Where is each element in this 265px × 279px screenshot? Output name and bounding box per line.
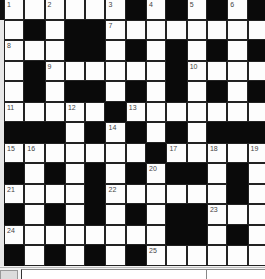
answer-cell[interactable] bbox=[187, 184, 207, 205]
answer-cell[interactable] bbox=[85, 61, 105, 82]
answer-cell[interactable] bbox=[248, 184, 265, 205]
answer-cell[interactable]: 6 bbox=[227, 0, 247, 20]
answer-cell[interactable] bbox=[187, 245, 207, 266]
answer-cell[interactable] bbox=[207, 245, 227, 266]
answer-cell[interactable] bbox=[65, 0, 85, 20]
answer-cell[interactable] bbox=[105, 143, 125, 164]
answer-cell[interactable] bbox=[24, 40, 44, 61]
answer-cell[interactable] bbox=[45, 225, 65, 246]
answer-cell[interactable]: 4 bbox=[146, 0, 166, 20]
answer-cell[interactable] bbox=[207, 61, 227, 82]
answer-cell[interactable] bbox=[24, 0, 44, 20]
answer-cell[interactable] bbox=[65, 245, 85, 266]
answer-cell[interactable]: 18 bbox=[207, 143, 227, 164]
answer-cell[interactable] bbox=[24, 102, 44, 123]
answer-cell[interactable] bbox=[105, 245, 125, 266]
answer-cell[interactable]: 14 bbox=[105, 122, 125, 143]
answer-cell[interactable] bbox=[248, 163, 265, 184]
answer-cell[interactable] bbox=[126, 225, 146, 246]
answer-cell[interactable]: 8 bbox=[4, 40, 24, 61]
answer-cell[interactable]: 17 bbox=[166, 143, 186, 164]
answer-cell[interactable] bbox=[166, 102, 186, 123]
answer-cell[interactable] bbox=[24, 204, 44, 225]
answer-cell[interactable] bbox=[166, 20, 186, 41]
answer-cell[interactable]: 7 bbox=[105, 20, 125, 41]
answer-cell[interactable]: 20 bbox=[146, 163, 166, 184]
answer-cell[interactable] bbox=[45, 102, 65, 123]
answer-cell[interactable] bbox=[65, 143, 85, 164]
answer-cell[interactable] bbox=[146, 20, 166, 41]
answer-cell[interactable] bbox=[65, 225, 85, 246]
answer-cell[interactable] bbox=[227, 81, 247, 102]
answer-cell[interactable] bbox=[166, 245, 186, 266]
answer-cell[interactable]: 21 bbox=[4, 184, 24, 205]
answer-cell[interactable] bbox=[24, 163, 44, 184]
answer-cell[interactable] bbox=[105, 204, 125, 225]
answer-cell[interactable] bbox=[227, 245, 247, 266]
answer-cell[interactable] bbox=[146, 81, 166, 102]
answer-cell[interactable] bbox=[227, 20, 247, 41]
answer-cell[interactable] bbox=[227, 102, 247, 123]
answer-cell[interactable] bbox=[187, 102, 207, 123]
answer-cell[interactable] bbox=[227, 143, 247, 164]
answer-cell[interactable] bbox=[105, 81, 125, 102]
answer-cell[interactable]: 11 bbox=[4, 102, 24, 123]
answer-cell[interactable] bbox=[187, 81, 207, 102]
answer-cell[interactable]: 9 bbox=[45, 61, 65, 82]
status-indicator[interactable] bbox=[0, 270, 18, 279]
answer-cell[interactable] bbox=[105, 61, 125, 82]
answer-cell[interactable] bbox=[85, 225, 105, 246]
answer-cell[interactable] bbox=[126, 20, 146, 41]
answer-cell[interactable]: 19 bbox=[248, 143, 265, 164]
answer-cell[interactable]: 23 bbox=[207, 204, 227, 225]
answer-cell[interactable] bbox=[146, 40, 166, 61]
answer-cell[interactable]: 15 bbox=[4, 143, 24, 164]
answer-cell[interactable] bbox=[207, 163, 227, 184]
answer-cell[interactable] bbox=[45, 20, 65, 41]
answer-cell[interactable] bbox=[4, 20, 24, 41]
answer-cell[interactable] bbox=[24, 225, 44, 246]
answer-cell[interactable] bbox=[227, 40, 247, 61]
answer-cell[interactable]: 13 bbox=[126, 102, 146, 123]
answer-cell[interactable] bbox=[65, 204, 85, 225]
answer-cell[interactable] bbox=[248, 245, 265, 266]
answer-cell[interactable] bbox=[146, 61, 166, 82]
answer-cell[interactable] bbox=[146, 204, 166, 225]
answer-cell[interactable] bbox=[85, 143, 105, 164]
answer-cell[interactable] bbox=[126, 61, 146, 82]
answer-cell[interactable] bbox=[65, 163, 85, 184]
answer-cell[interactable]: 10 bbox=[187, 61, 207, 82]
answer-cell[interactable]: 2 bbox=[45, 0, 65, 20]
answer-cell[interactable]: 24 bbox=[4, 225, 24, 246]
answer-cell[interactable] bbox=[248, 225, 265, 246]
answer-cell[interactable] bbox=[146, 225, 166, 246]
answer-cell[interactable] bbox=[85, 0, 105, 20]
answer-cell[interactable] bbox=[126, 143, 146, 164]
answer-cell[interactable]: 12 bbox=[65, 102, 85, 123]
answer-cell[interactable] bbox=[65, 184, 85, 205]
answer-cell[interactable]: 3 bbox=[105, 0, 125, 20]
answer-cell[interactable] bbox=[248, 102, 265, 123]
answer-cell[interactable] bbox=[105, 163, 125, 184]
answer-cell[interactable] bbox=[248, 204, 265, 225]
answer-cell[interactable]: 16 bbox=[24, 143, 44, 164]
answer-cell[interactable] bbox=[65, 61, 85, 82]
answer-cell[interactable] bbox=[105, 40, 125, 61]
answer-cell[interactable] bbox=[146, 102, 166, 123]
answer-cell[interactable] bbox=[45, 81, 65, 102]
answer-cell[interactable] bbox=[4, 81, 24, 102]
answer-cell[interactable] bbox=[4, 61, 24, 82]
answer-cell[interactable] bbox=[248, 61, 265, 82]
answer-cell[interactable] bbox=[187, 122, 207, 143]
answer-cell[interactable] bbox=[187, 143, 207, 164]
answer-cell[interactable] bbox=[207, 184, 227, 205]
answer-cell[interactable]: 25 bbox=[146, 245, 166, 266]
answer-cell[interactable]: 1 bbox=[4, 0, 24, 20]
answer-cell[interactable] bbox=[105, 225, 125, 246]
answer-cell[interactable] bbox=[227, 204, 247, 225]
answer-cell[interactable]: 22 bbox=[105, 184, 125, 205]
answer-cell[interactable] bbox=[207, 102, 227, 123]
answer-cell[interactable] bbox=[187, 40, 207, 61]
answer-cell[interactable] bbox=[45, 40, 65, 61]
answer-cell[interactable] bbox=[146, 122, 166, 143]
